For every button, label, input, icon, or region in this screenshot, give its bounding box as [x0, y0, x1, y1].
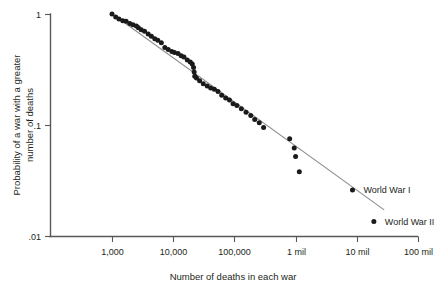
annotation-label-0: World War I [363, 185, 410, 195]
x-axis-title-group: Number of deaths in each war [170, 271, 297, 282]
y-axis-title-line1: Probability of a war with a greater [11, 55, 22, 196]
data-point [192, 70, 197, 75]
y-axis-title-group: Probability of a war with a greater numb… [11, 55, 35, 196]
data-point [371, 219, 376, 224]
power-law-fit-line [115, 15, 385, 209]
x-axis-title: Number of deaths in each war [170, 271, 297, 282]
data-point [227, 97, 232, 102]
data-point-group [110, 12, 377, 225]
data-point [234, 103, 239, 108]
y-axis-title-line2: number of deaths [24, 88, 35, 162]
x-axis: 1,00010,000100,0001 mil10 mil100 mil [50, 237, 433, 258]
data-point [239, 106, 244, 111]
data-point [159, 40, 164, 45]
data-point [293, 154, 298, 159]
data-point [191, 65, 196, 70]
y-tick-label-0: 1 [36, 10, 41, 20]
x-tick-label-1: 10,000 [160, 247, 188, 257]
x-tick-label-3: 1 mil [287, 247, 306, 257]
annotation-label-1: World War II [385, 217, 435, 227]
x-tick-label-2: 100,000 [218, 247, 251, 257]
x-tick-label-5: 100 mil [404, 247, 433, 257]
y-tick-label-2: .01 [28, 232, 41, 242]
data-point [248, 113, 253, 118]
x-tick-label-4: 10 mil [345, 247, 369, 257]
data-point [287, 136, 292, 141]
fit-line-group [115, 15, 385, 209]
x-axis-ticks [113, 237, 419, 243]
data-point [297, 169, 302, 174]
data-point [350, 187, 355, 192]
chart-plot-area: 1.1.01 1,00010,000100,0001 mil10 mil100 … [0, 0, 447, 292]
data-point [252, 117, 257, 122]
data-point [216, 89, 221, 94]
data-point [257, 120, 262, 125]
data-point [261, 125, 266, 130]
data-point [292, 146, 297, 151]
y-axis-ticks [45, 15, 51, 237]
data-point [244, 110, 249, 115]
power-law-war-deaths-chart: 1.1.01 1,00010,000100,0001 mil10 mil100 … [0, 0, 447, 292]
x-tick-label-0: 1,000 [101, 247, 124, 257]
x-axis-tick-labels: 1,00010,000100,0001 mil10 mil100 mil [101, 247, 433, 257]
